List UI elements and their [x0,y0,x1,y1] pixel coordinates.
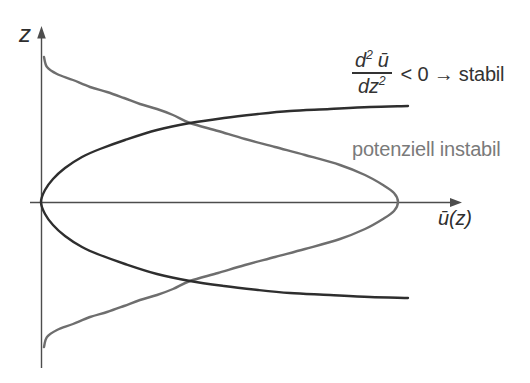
numerator-exponent: 2 [366,48,373,62]
fraction-denominator: dz2 [355,76,388,97]
stability-condition: d2ū dz2 < 0 → stabil [352,50,504,97]
z-axis-arrow-icon [37,26,46,39]
condition-text: < 0 → stabil [401,61,505,86]
z-axis-label: z [19,22,31,46]
denominator-exponent: 2 [379,74,386,88]
derivative-fraction: d2ū dz2 [352,50,392,97]
u-axis-arrow-icon [450,198,462,207]
u-axis-label: ū(z) [438,208,472,228]
fraction-numerator: d2ū [352,50,392,71]
denominator-dz: dz [358,75,379,97]
numerator-u-bar: ū [378,49,389,71]
figure-velocity-profiles: z ū(z) d2ū dz2 < 0 → stabil potenziell i… [0,0,530,383]
numerator-d: d [355,49,366,71]
unstable-label: potenziell instabil [352,138,501,161]
